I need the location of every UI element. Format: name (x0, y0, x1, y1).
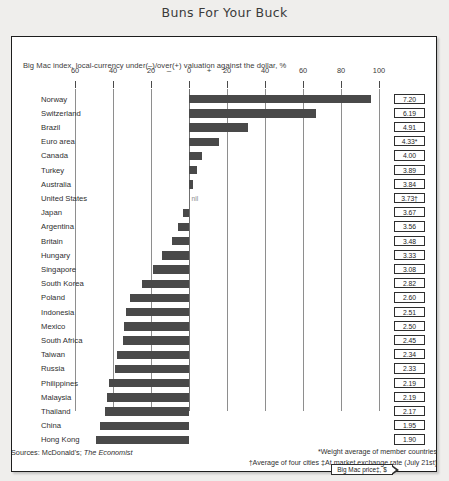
chart-row: South Korea2.82 (12, 277, 438, 291)
value-bar (130, 294, 189, 302)
price-value-box: 2.19 (394, 392, 425, 402)
axis-tick (265, 81, 266, 88)
value-bar (189, 109, 316, 117)
price-value-box: 1.95 (394, 420, 425, 430)
chart-row: Argentina3.56 (12, 220, 438, 234)
price-value-box: 3.84 (394, 179, 425, 189)
axis-tick (227, 81, 228, 88)
chart-row: Brazil4.91 (12, 121, 438, 135)
price-value-box: 2.33 (394, 363, 425, 373)
price-value-box: 7.20 (394, 94, 425, 104)
category-label: Hungary (41, 250, 70, 261)
value-bar (105, 407, 189, 415)
chart-row: Australia3.84 (12, 178, 438, 192)
chart-panel: Big Mac index, local-currency under(–)/o… (11, 36, 437, 472)
chart-row: Hong Kong1.90 (12, 433, 438, 447)
price-value-box: 6.19 (394, 108, 425, 118)
category-label: South Korea (41, 278, 84, 289)
category-label: Mexico (41, 321, 65, 332)
price-value-box: 3.73† (394, 193, 425, 203)
category-label: Hong Kong (41, 434, 79, 445)
category-label: Thailand (41, 406, 71, 417)
value-bar (189, 166, 197, 174)
value-bar (189, 95, 371, 103)
plot-area: 604020020406080100–+Norway7.20Switzerlan… (12, 37, 438, 473)
category-label: China (41, 420, 61, 431)
category-label: Australia (41, 179, 71, 190)
price-value-box: 4.33* (394, 136, 425, 146)
price-value-box: 1.90 (394, 434, 425, 444)
category-label: Argentina (41, 221, 74, 232)
footnotes: *Weight average of member countries †Ave… (249, 447, 437, 468)
category-label: Turkey (41, 165, 64, 176)
chart-page: Buns For Your Buck Big Mac index, local-… (0, 0, 449, 481)
value-bar (124, 322, 189, 330)
value-bar (172, 237, 189, 245)
axis-tick (341, 81, 342, 88)
chart-row: Philippines2.19 (12, 377, 438, 391)
chart-row: Japan3.67 (12, 206, 438, 220)
value-bar (109, 379, 189, 387)
price-value-box: 4.00 (394, 150, 425, 160)
chart-row: Malaysia2.19 (12, 391, 438, 405)
nil-annotation: nil (192, 195, 199, 202)
chart-row: Singapore3.08 (12, 263, 438, 277)
price-value-box: 2.82 (394, 278, 425, 288)
category-label: Singapore (41, 264, 76, 275)
category-label: Philippines (41, 378, 78, 389)
footnote-line-1: *Weight average of member countries (249, 447, 437, 458)
category-label: Brazil (41, 122, 60, 133)
value-bar (100, 422, 189, 430)
axis-tick-label: 100 (373, 66, 385, 75)
chart-row: Britain3.48 (12, 235, 438, 249)
price-value-box: 2.51 (394, 307, 425, 317)
price-value-box: 2.17 (394, 406, 425, 416)
price-value-box: 3.08 (394, 264, 425, 274)
chart-row: Euro area4.33* (12, 135, 438, 149)
axis-tick-label: 40 (109, 66, 117, 75)
price-value-box: 3.48 (394, 236, 425, 246)
value-bar (107, 393, 189, 401)
value-bar (126, 308, 189, 316)
chart-row: United Statesnil3.73† (12, 192, 438, 206)
value-bar (115, 365, 189, 373)
chart-row: Canada4.00 (12, 149, 438, 163)
category-label: South Africa (41, 335, 82, 346)
sources-prefix: Sources: McDonald's; (11, 448, 84, 457)
category-label: Euro area (41, 136, 75, 147)
price-value-box: 2.34 (394, 349, 425, 359)
axis-tick (379, 81, 380, 88)
axis-tick (303, 81, 304, 88)
chart-row: Switzerland6.19 (12, 107, 438, 121)
category-label: Switzerland (41, 108, 81, 119)
chart-row: Mexico2.50 (12, 320, 438, 334)
value-bar (142, 280, 190, 288)
chart-row: China1.95 (12, 419, 438, 433)
footnote-line-2: †Average of four cities ‡At market excha… (249, 458, 437, 469)
chart-row: Poland2.60 (12, 291, 438, 305)
price-value-box: 2.60 (394, 292, 425, 302)
price-value-box: 3.56 (394, 221, 425, 231)
category-label: Japan (41, 207, 62, 218)
value-bar (153, 265, 189, 273)
value-bar (189, 123, 248, 131)
axis-tick (151, 81, 152, 88)
page-title: Buns For Your Buck (0, 5, 449, 20)
axis-tick-label: 0 (187, 66, 191, 75)
sources-note: Sources: McDonald's; The Economist (11, 448, 132, 457)
chart-row: Norway7.20 (12, 93, 438, 107)
axis-tick (113, 81, 114, 88)
chart-row: Taiwan2.34 (12, 348, 438, 362)
value-bar (96, 436, 189, 444)
price-value-box: 3.67 (394, 207, 425, 217)
value-bar (183, 209, 189, 217)
category-label: Norway (41, 94, 67, 105)
category-label: United States (41, 193, 87, 204)
chart-row: Russia2.33 (12, 362, 438, 376)
category-label: Taiwan (41, 349, 65, 360)
sources-italic: The Economist (84, 448, 133, 457)
axis-tick-label: 60 (71, 66, 79, 75)
chart-row: Indonesia2.51 (12, 306, 438, 320)
axis-tick (75, 81, 76, 88)
price-value-box: 2.45 (394, 335, 425, 345)
